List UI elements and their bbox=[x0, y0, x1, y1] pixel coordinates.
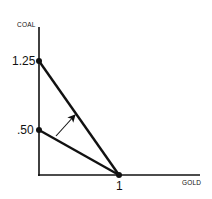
budget-line-diagram: COAL 1.25 .50 1 GOLD bbox=[0, 0, 212, 199]
x-tick-1: 1 bbox=[116, 180, 123, 192]
new-budget-line bbox=[39, 61, 119, 175]
rotation-arrow bbox=[56, 115, 75, 136]
diagram-canvas bbox=[0, 0, 212, 199]
y-axis-label: COAL bbox=[17, 22, 36, 29]
point-gold-1 bbox=[116, 172, 122, 178]
y-tick-1-25: 1.25 bbox=[12, 55, 35, 67]
point-coal-0-50 bbox=[36, 127, 42, 133]
point-coal-1-25 bbox=[36, 58, 42, 64]
y-tick-0-50: .50 bbox=[17, 124, 34, 136]
x-axis-label: GOLD bbox=[182, 180, 201, 187]
original-budget-line bbox=[39, 130, 119, 175]
